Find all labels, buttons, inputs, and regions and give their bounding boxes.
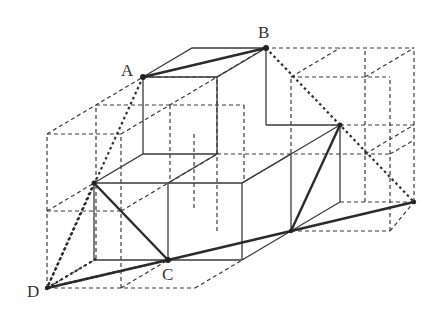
label-b: B [258,24,269,41]
cube-diagram [0,0,448,314]
dotted-diagonals [47,48,414,288]
vertices [45,45,416,290]
label-a: A [121,62,133,79]
point-far [412,200,416,204]
point-left [92,181,97,186]
point-right [338,123,343,128]
point-b [263,45,269,51]
point-d [45,286,49,290]
label-c: C [162,266,173,283]
label-d: D [27,283,39,300]
point-a [140,74,146,80]
point-c [165,257,171,263]
point-mid [289,229,293,233]
